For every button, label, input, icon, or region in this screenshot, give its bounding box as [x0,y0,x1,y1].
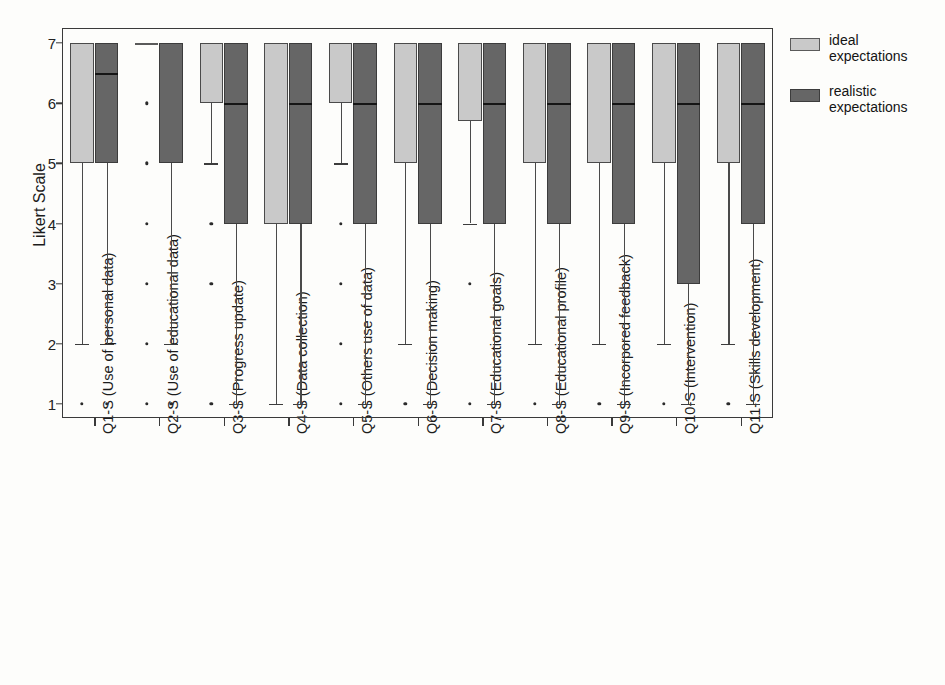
median-line-real [418,103,442,105]
whisker-lower-real [559,224,560,405]
outlier-point-ideal [468,282,471,285]
whisker-lower-ideal [82,163,83,344]
box-real [353,43,377,224]
outlier-point-real [105,402,108,405]
whisker-cap-real [746,404,760,405]
whisker-lower-ideal [728,163,729,344]
whisker-cap-ideal [592,344,606,345]
whisker-cap-ideal [721,344,735,345]
whisker-lower-real [688,284,689,404]
x-tick-mark [288,418,289,426]
chart-legend: idealexpectationsrealisticexpectations [790,33,940,136]
whisker-cap-real [358,404,372,405]
y-tick-label: 1 [0,396,56,413]
x-tick-mark [418,418,419,426]
whisker-cap-real [617,404,631,405]
outlier-point-real [170,402,173,405]
box-real [159,43,183,163]
outlier-point-ideal [404,402,407,405]
whisker-lower-real [494,224,495,405]
median-line-real [224,103,248,105]
median-line-real [483,103,507,105]
box-ideal [329,43,353,103]
x-tick-mark [611,418,612,426]
box-real [547,43,571,224]
whisker-lower-real [107,163,108,344]
x-tick-mark [159,418,160,426]
y-tick-label: 3 [0,275,56,292]
x-tick-mark [741,418,742,426]
whisker-lower-ideal [341,103,342,163]
outlier-point-ideal [727,402,730,405]
whisker-lower-real [430,224,431,405]
whisker-lower-real [624,224,625,405]
whisker-lower-real [236,224,237,405]
legend-item-ideal: idealexpectations [790,33,940,64]
median-line-real [677,103,701,105]
box-ideal [587,43,611,163]
median-line-real [289,103,313,105]
whisker-cap-real [229,404,243,405]
outlier-point-ideal [339,282,342,285]
outlier-point-ideal [597,402,600,405]
median-line-real [612,103,636,105]
outlier-point-ideal [145,402,148,405]
y-axis-label: Likert Scale [31,163,49,247]
box-real [612,43,636,224]
whisker-cap-ideal [269,404,283,405]
y-tick-label: 5 [0,155,56,172]
box-ideal [264,43,288,224]
outlier-point-ideal [339,342,342,345]
whisker-cap-real [423,404,437,405]
outlier-point-ideal [339,222,342,225]
whisker-lower-ideal [535,163,536,344]
median-line-real [95,73,119,75]
whisker-cap-ideal [463,224,477,225]
whisker-cap-real [487,404,501,405]
box-ideal-collapsed [135,43,159,45]
median-line-real [741,103,765,105]
x-tick-mark [676,418,677,426]
whisker-cap-ideal [528,344,542,345]
x-tick-mark [224,418,225,426]
whisker-lower-ideal [405,163,406,344]
box-ideal [70,43,94,163]
whisker-cap-ideal [204,163,218,164]
whisker-cap-real [552,404,566,405]
box-ideal [652,43,676,163]
outlier-point-ideal [145,342,148,345]
whisker-lower-real [365,224,366,405]
outlier-point-ideal [210,402,213,405]
box-ideal [394,43,418,163]
y-tick-label: 6 [0,95,56,112]
outlier-point-ideal [339,402,342,405]
plot-area [62,28,773,418]
y-tick-label: 2 [0,335,56,352]
legend-swatch-realistic [790,89,820,102]
legend-label-line2-realistic: expectations [829,100,908,116]
whisker-lower-ideal [276,224,277,405]
box-real [677,43,701,284]
whisker-lower-real [171,163,172,344]
outlier-point-ideal [145,101,148,104]
box-real [418,43,442,224]
box-ideal [523,43,547,163]
box-real [741,43,765,224]
whisker-cap-ideal [398,344,412,345]
whisker-cap-ideal [657,344,671,345]
legend-label-ideal: idealexpectations [829,33,908,64]
chart-page: Likert Scale 7654321 Q1-S (Use of person… [0,0,945,685]
whisker-lower-ideal [470,121,471,223]
y-tick-label: 4 [0,215,56,232]
y-tick-label: 7 [0,35,56,52]
outlier-point-ideal [533,402,536,405]
outlier-point-ideal [468,402,471,405]
whisker-cap-ideal [334,163,348,164]
whisker-lower-real [300,224,301,405]
outlier-point-ideal [80,402,83,405]
median-line-real [547,103,571,105]
whisker-lower-ideal [664,163,665,344]
legend-label-line2-ideal: expectations [829,49,908,65]
x-tick-mark [353,418,354,426]
legend-swatch-ideal [790,38,820,51]
